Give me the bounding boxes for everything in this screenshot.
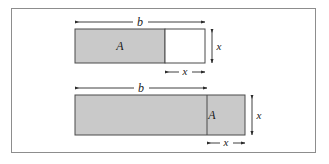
rectangle-area-diagram: A b x x A b x (0, 0, 329, 164)
top-dimension-b-label: b (137, 15, 143, 29)
bottom-area-label-A: A (207, 108, 216, 122)
bottom-dimension-b-label: b (138, 81, 144, 95)
top-unshaded-region (165, 29, 205, 63)
top-dimension-x-height-label: x (216, 40, 222, 52)
top-dimension-x-width-label: x (182, 65, 188, 77)
bottom-dimension-x-height-label: x (256, 109, 262, 121)
top-area-label-A: A (115, 39, 124, 53)
figure-root: A b x x A b x (0, 0, 329, 164)
bottom-dimension-x-width-label: x (223, 136, 229, 148)
bottom-shaded-region (75, 95, 245, 135)
